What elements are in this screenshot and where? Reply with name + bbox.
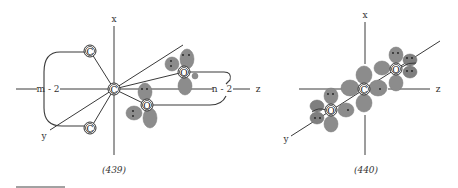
svg-text:O: O bbox=[180, 68, 187, 78]
svg-text:C: C bbox=[87, 47, 94, 57]
svg-text:C: C bbox=[361, 85, 368, 95]
svg-text:C: C bbox=[111, 85, 118, 95]
atom-upper-o-440: O bbox=[390, 63, 402, 75]
atom-lower-o-440: O bbox=[325, 104, 337, 116]
diagram-canvas: x m - 2 n - 2 z y bbox=[0, 0, 458, 188]
atom-center-c-440: C bbox=[358, 83, 370, 95]
z-axis-label-439: z bbox=[256, 84, 261, 94]
figure-439: x m - 2 n - 2 z y bbox=[16, 14, 261, 175]
y-axis-439 bbox=[50, 89, 114, 130]
chain-label-m-2: m - 2 bbox=[36, 84, 59, 94]
svg-text:C: C bbox=[87, 124, 94, 134]
svg-text:O: O bbox=[143, 101, 150, 111]
atom-center-c-439: C bbox=[108, 83, 120, 95]
caption-440: (440) bbox=[354, 165, 379, 175]
atom-lower-c-439: C bbox=[84, 122, 96, 134]
atom-upper-c-439: C bbox=[84, 45, 96, 57]
svg-text:O: O bbox=[392, 65, 399, 75]
chain-label-n-2: n - 2 bbox=[212, 84, 232, 94]
y-axis-label-439: y bbox=[40, 131, 47, 141]
x-axis-label-439: x bbox=[111, 14, 116, 24]
atom-upper-o-439: O bbox=[178, 66, 190, 78]
caption-439: (439) bbox=[102, 165, 127, 175]
figure-440: x z y bbox=[282, 10, 440, 175]
atom-lower-o-439: O bbox=[141, 99, 153, 111]
y-axis-label-440: y bbox=[282, 134, 289, 144]
svg-text:O: O bbox=[327, 106, 334, 116]
x-axis-label-440: x bbox=[362, 10, 367, 20]
ring-bracket-right-lower bbox=[153, 96, 226, 105]
z-axis-label-440: z bbox=[436, 84, 441, 94]
